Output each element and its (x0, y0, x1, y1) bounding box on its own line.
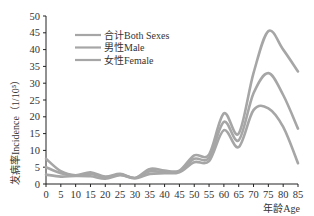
y-tick-label: 25 (30, 95, 41, 106)
x-tick-label: 60 (219, 189, 230, 200)
x-tick-label: 0 (43, 189, 48, 200)
x-tick-label: 85 (293, 189, 304, 200)
y-tick-label: 30 (30, 78, 41, 89)
y-axis: 05101520253035404550 (30, 11, 47, 190)
y-tick-label: 20 (30, 111, 41, 122)
series-line-male (46, 30, 298, 178)
y-tick-label: 5 (35, 162, 40, 173)
x-tick-label: 45 (174, 189, 185, 200)
y-tick-label: 35 (30, 61, 41, 72)
x-axis: 0510152025303540455055606570758085 (43, 184, 303, 200)
legend-item-male: 男性Male (75, 41, 145, 53)
x-tick-label: 40 (159, 189, 170, 200)
x-tick-label: 20 (100, 189, 111, 200)
x-tick-label: 5 (58, 189, 63, 200)
x-tick-label: 15 (85, 189, 96, 200)
incidence-line-chart: 05101520253035404550 0510152025303540455… (0, 0, 314, 216)
y-tick-label: 45 (30, 27, 41, 38)
legend-label: 女性Female (104, 54, 154, 66)
x-axis-title: 年龄Age (263, 202, 300, 214)
x-tick-label: 65 (233, 189, 244, 200)
x-tick-label: 80 (278, 189, 289, 200)
series-lines (46, 30, 298, 178)
x-tick-label: 30 (130, 189, 141, 200)
y-tick-label: 50 (30, 11, 41, 22)
series-line-both-sexes (46, 73, 298, 178)
legend-label: 合计Both Sexes (104, 29, 169, 41)
x-tick-label: 75 (263, 189, 274, 200)
y-tick-label: 15 (30, 128, 41, 139)
legend-item-both-sexes: 合计Both Sexes (75, 29, 169, 41)
x-tick-label: 50 (189, 189, 200, 200)
x-tick-label: 25 (115, 189, 126, 200)
y-tick-label: 10 (30, 145, 41, 156)
legend-item-female: 女性Female (75, 54, 154, 66)
x-tick-label: 70 (248, 189, 259, 200)
series-line-female (46, 106, 298, 179)
y-tick-label: 40 (30, 44, 41, 55)
legend-label: 男性Male (104, 41, 145, 53)
y-axis-title: 发病率Incidence（1/10⁵） (9, 75, 21, 185)
y-tick-label: 0 (35, 179, 40, 190)
x-tick-label: 10 (70, 189, 81, 200)
x-tick-label: 55 (204, 189, 215, 200)
legend: 合计Both Sexes男性Male女性Female (75, 29, 169, 66)
x-tick-label: 35 (145, 189, 156, 200)
